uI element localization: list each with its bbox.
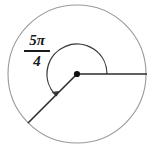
vertex-point	[74, 71, 80, 77]
angle-measure-label: 5π 4	[18, 33, 56, 69]
angle-label-numerator: 5π	[18, 33, 56, 49]
fraction-bar	[24, 50, 50, 52]
angle-figure: 5π 4	[0, 0, 157, 165]
terminal-ray	[28, 74, 77, 123]
circle-angle-diagram	[0, 0, 157, 165]
angle-label-denominator: 4	[18, 53, 56, 69]
